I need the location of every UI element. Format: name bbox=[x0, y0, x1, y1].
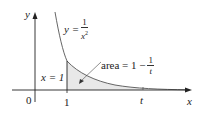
curve-equation-fraction: 1 x2 bbox=[81, 17, 88, 41]
vertical-line-label: x = 1 bbox=[41, 72, 64, 83]
curve-den-exponent: 2 bbox=[85, 30, 88, 36]
area-label-numerator: 1 bbox=[147, 55, 154, 66]
area-label-denominator: t bbox=[149, 66, 152, 76]
curve-equation-numerator: 1 bbox=[81, 17, 88, 28]
y-axis-label: y bbox=[25, 9, 30, 20]
tick-label-1: 1 bbox=[64, 97, 70, 108]
x-axis-label: x bbox=[187, 96, 192, 107]
y-axis-arrow-icon bbox=[33, 12, 38, 19]
curve-equation-denominator: x2 bbox=[81, 28, 88, 41]
origin-label: 0 bbox=[26, 95, 32, 106]
tick-label-t: t bbox=[140, 95, 143, 106]
area-label: area = 1 − 1 t bbox=[101, 55, 154, 76]
curve-equation-lhs: y = bbox=[64, 24, 79, 35]
area-label-fraction: 1 t bbox=[147, 55, 154, 76]
curve-equation-label: y = 1 x2 bbox=[64, 17, 88, 41]
x-axis-arrow-icon bbox=[185, 88, 192, 93]
area-label-prefix: area = 1 − bbox=[101, 60, 145, 71]
vertical-line-label-text: x = 1 bbox=[41, 71, 64, 83]
